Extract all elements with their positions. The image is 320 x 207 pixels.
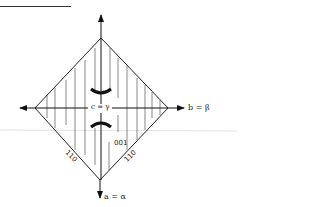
- a-axis-label: a = α: [104, 193, 126, 201]
- center-axis-label: c = γ: [90, 104, 110, 111]
- face-001-label: 001: [114, 140, 127, 147]
- b-axis-label: b = β: [188, 104, 210, 112]
